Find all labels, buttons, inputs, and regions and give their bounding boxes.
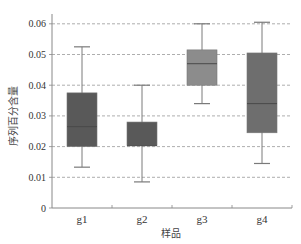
iqr-box [127, 122, 157, 146]
iqr-box [67, 93, 97, 147]
box-series [67, 22, 277, 182]
box-g3 [187, 24, 217, 104]
y-tick-label: 0 [41, 203, 46, 214]
iqr-box [247, 53, 277, 133]
x-tick-label: g3 [197, 213, 209, 225]
y-tick-label: 0.04 [29, 80, 47, 91]
x-tick-label: g2 [137, 213, 148, 225]
y-tick-label: 0.03 [29, 110, 47, 121]
box-g4 [247, 22, 277, 163]
box-g2 [127, 85, 157, 182]
x-axis-title: 样品 [161, 227, 181, 239]
y-tick-label: 0.05 [29, 49, 47, 60]
box-g1 [67, 47, 97, 167]
y-tick-label: 0.02 [29, 141, 47, 152]
x-tick-label: g4 [257, 213, 269, 225]
boxplot-chart: 00.010.020.030.040.050.06 g1g2g3g4 样品 序列… [0, 0, 301, 244]
y-tick-label: 0.06 [29, 18, 47, 29]
y-tick-label: 0.01 [29, 172, 47, 183]
y-axis-title: 序列百分含量 [7, 86, 19, 146]
x-tick-label: g1 [77, 213, 88, 225]
iqr-box [187, 50, 217, 85]
y-tick-labels: 00.010.020.030.040.050.06 [29, 18, 47, 213]
